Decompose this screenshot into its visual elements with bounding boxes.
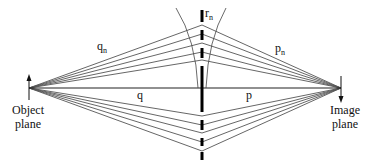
ray <box>202 43 341 88</box>
ray <box>29 25 202 88</box>
label-rn: rn <box>205 6 213 22</box>
ray <box>202 88 341 116</box>
ray <box>29 88 202 133</box>
ray <box>202 34 341 88</box>
ray <box>202 52 341 88</box>
arrow-down-icon <box>339 96 344 103</box>
ray <box>202 88 341 142</box>
image-plane-label-line1: Image <box>330 103 360 117</box>
label-pn: pn <box>275 41 285 57</box>
ray <box>29 34 202 88</box>
ray <box>29 60 202 88</box>
ray <box>29 43 202 88</box>
zone-plate-diagram: qn pn rn q p Object plane Image plane <box>0 0 372 164</box>
ray <box>29 88 202 116</box>
ray <box>202 25 341 88</box>
ray <box>29 52 202 88</box>
label-qn: qn <box>97 39 107 55</box>
ray <box>202 60 341 88</box>
image-plane-label-line2: plane <box>332 117 358 131</box>
label-p: p <box>246 88 252 102</box>
wavefront-arc-left <box>176 8 198 88</box>
object-plane-label-line1: Object <box>12 103 45 117</box>
ray <box>202 88 341 133</box>
arrow-up-icon <box>27 74 32 81</box>
ray <box>29 88 202 142</box>
object-plane-label-line2: plane <box>15 117 41 131</box>
label-q: q <box>137 88 143 102</box>
image-arrow <box>339 76 344 103</box>
